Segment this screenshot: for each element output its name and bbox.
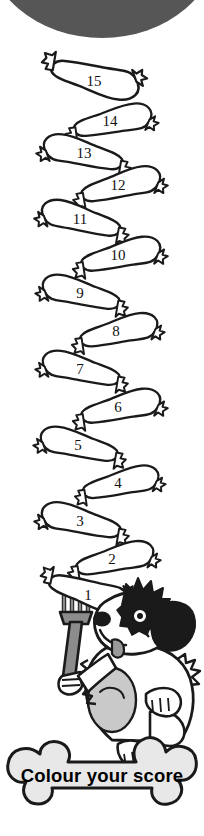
sausage-number-10: 10 <box>111 247 126 263</box>
sausage-number-3: 3 <box>76 513 84 529</box>
sausage-number-5: 5 <box>74 437 82 453</box>
sausage-number-1: 1 <box>84 587 92 603</box>
sausage-number-15: 15 <box>87 73 102 89</box>
sausage-number-11: 11 <box>73 211 87 227</box>
bone-banner-label: Colour your score <box>21 765 184 786</box>
sausage-number-6: 6 <box>114 399 122 415</box>
sausage-number-7: 7 <box>76 361 84 377</box>
sausage-number-13: 13 <box>77 145 92 161</box>
sausage-number-8: 8 <box>112 323 120 339</box>
sausage-number-14: 14 <box>103 113 119 129</box>
sausage-number-12: 12 <box>111 177 126 193</box>
dog-paw-raised <box>146 688 181 716</box>
dog-nose <box>93 612 111 627</box>
sausage-number-4: 4 <box>114 475 122 491</box>
score-card-page: 15 14 13 12 11 10 9 <box>0 0 204 836</box>
top-dark-arc <box>0 0 204 38</box>
sausage-chain: 15 14 13 12 11 10 9 <box>32 43 170 592</box>
dog-tongue <box>112 639 124 657</box>
bone-banner[interactable]: Colour your score <box>8 738 197 805</box>
dog-eye-pupil <box>137 613 143 619</box>
sausage-number-9: 9 <box>76 285 84 301</box>
scorecard-illustration: 15 14 13 12 11 10 9 <box>0 0 204 836</box>
sausage-number-2: 2 <box>108 551 116 567</box>
